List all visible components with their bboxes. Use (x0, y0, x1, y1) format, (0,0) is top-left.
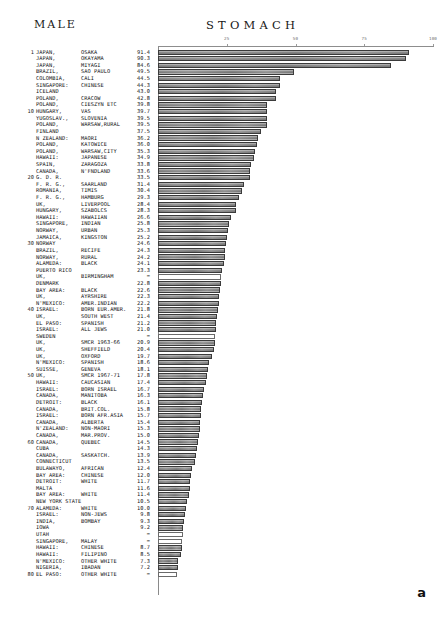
row-bar (158, 109, 267, 114)
row-value: 13.9 (96, 452, 150, 458)
row-bar (158, 466, 192, 471)
row-country: MALTA (36, 485, 52, 491)
row-bar (158, 327, 216, 332)
row-value: 36.0 (96, 141, 150, 147)
row-country: POLAND, (36, 95, 59, 101)
row-value: 90.3 (96, 55, 150, 61)
row-bar-track (158, 380, 206, 385)
row-bar-track (158, 155, 254, 160)
chart-row: DETROIT:WHITE11.7 (0, 479, 446, 486)
row-value: 16.3 (96, 392, 150, 398)
row-bar-track (158, 142, 257, 147)
chart-row: N'MEXICO:SPANISH18.6 (0, 360, 446, 367)
chart-row: F. R. G.,SAARLAND31.4 (0, 181, 446, 188)
row-bar (158, 459, 195, 464)
row-country: HAWAII: (36, 544, 59, 550)
row-bar (158, 334, 215, 339)
row-value: 12.4 (96, 465, 150, 471)
row-bar (158, 512, 185, 517)
row-bar-track (158, 360, 209, 365)
row-value: 22.8 (96, 280, 150, 286)
row-value: 17.4 (96, 379, 150, 385)
chart-row: HAWAII:JAPANESE34.9 (0, 155, 446, 162)
row-region: TIMIS (81, 187, 97, 193)
row-value: 15.0 (96, 432, 150, 438)
row-bar (158, 519, 184, 524)
row-bar (158, 261, 224, 266)
row-country: UK, (36, 293, 46, 299)
row-value: 25.8 (96, 220, 150, 226)
row-country: DETROIT: (36, 478, 62, 484)
row-value: 7.2 (96, 564, 150, 570)
row-value: 21.4 (96, 313, 150, 319)
x-tick-label-25: 25 (224, 36, 229, 41)
chart-row: 50UK,SMCR 1967-7117.8 (0, 373, 446, 380)
row-rank: 50 (0, 372, 34, 378)
row-country: ISRAEL: (36, 412, 59, 418)
row-country: INDIA, (36, 518, 55, 524)
row-value: 22.2 (96, 300, 150, 306)
chart-row: ISRAEL:ALL JEWS21.0 (0, 327, 446, 334)
row-country: NEW YORK STATE (36, 498, 81, 504)
row-country: HAWAII: (36, 214, 59, 220)
row-bar-track (158, 122, 267, 127)
row-bar-track (158, 135, 258, 140)
row-bar-track (158, 287, 220, 292)
row-value: 7.3 (96, 558, 150, 564)
row-value: 18.6 (96, 359, 150, 365)
row-country: N ZEALAND: (36, 135, 68, 141)
row-rank: 1 (0, 49, 34, 55)
row-bar (158, 168, 250, 173)
row-bar (158, 453, 196, 458)
row-country: UK, (36, 201, 46, 207)
row-region: MAORI (81, 135, 97, 141)
row-bar (158, 69, 294, 74)
row-value: 39.5 (96, 121, 150, 127)
chart-row: SPAIN,ZARAGOZA33.8 (0, 161, 446, 168)
row-bar-track (158, 486, 190, 491)
row-country: SWEDEN (36, 333, 55, 339)
row-value: 26.6 (96, 214, 150, 220)
row-rank: 80 (0, 571, 34, 577)
chart-row: UK,OXFORD19.7 (0, 353, 446, 360)
chart-row: SINGAPORE,MALAY= (0, 538, 446, 545)
row-bar-track (158, 96, 276, 101)
chart-row: POLAND,CIESZYN ETC39.8 (0, 102, 446, 109)
row-value: 23.3 (96, 267, 150, 273)
chart-row: INDIA,BOMBAY9.3 (0, 518, 446, 525)
row-bar-track (158, 479, 190, 484)
row-bar (158, 142, 257, 147)
row-bar (158, 426, 200, 431)
chart-row: CANADA,MAR.PROV.15.0 (0, 432, 446, 439)
row-country: NIGERIA, (36, 564, 62, 570)
row-bar-track (158, 188, 242, 193)
row-value: 15.7 (96, 412, 150, 418)
row-value: 16.7 (96, 386, 150, 392)
row-bar-track (158, 254, 225, 259)
row-bar (158, 116, 267, 121)
row-region: BLACK (81, 287, 97, 293)
row-bar (158, 182, 244, 187)
row-bar-track (158, 525, 183, 530)
row-bar-track (158, 195, 239, 200)
row-bar-track (158, 499, 187, 504)
row-bar (158, 539, 182, 544)
row-bar-track (158, 294, 219, 299)
row-bar (158, 354, 212, 359)
row-bar-track (158, 506, 186, 511)
row-bar-track (158, 558, 178, 563)
row-bar-track (158, 221, 229, 226)
row-bar-track (158, 492, 189, 497)
row-value: 33.5 (96, 174, 150, 180)
row-country: POLAND, (36, 148, 59, 154)
row-country: N'ZEALAND: (36, 425, 68, 431)
row-bar (158, 83, 280, 88)
row-value: 12.0 (96, 472, 150, 478)
row-value: 25.2 (96, 234, 150, 240)
row-value: 37.5 (96, 128, 150, 134)
row-bar-track (158, 387, 204, 392)
row-value: 11.6 (96, 485, 150, 491)
row-bar-track (158, 545, 182, 550)
row-bar-track (158, 89, 276, 94)
row-bar-track (158, 446, 197, 451)
